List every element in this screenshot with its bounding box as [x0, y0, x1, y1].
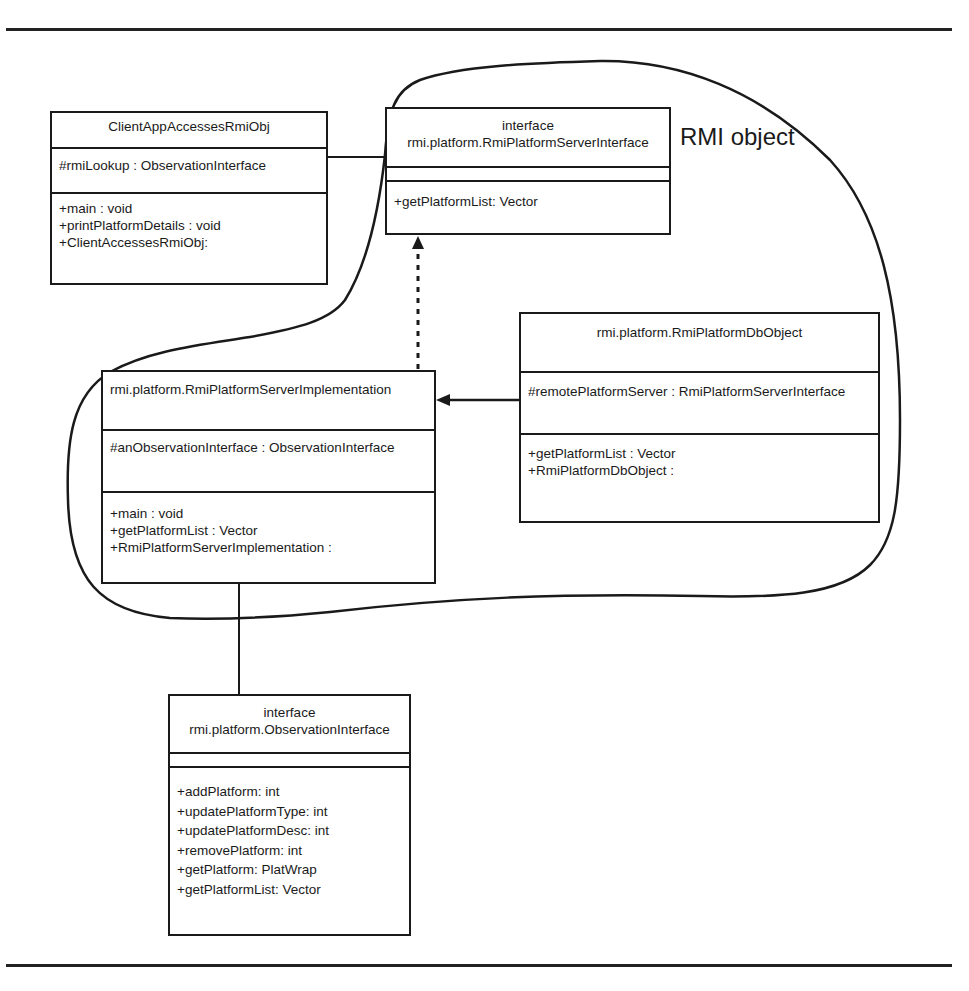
operation: +getPlatformList: Vector: [177, 880, 402, 900]
operation: +main : void: [110, 505, 427, 522]
attributes-section: #anObservationInterface : ObservationInt…: [103, 429, 434, 491]
operation: +RmiPlatformDbObject :: [528, 462, 871, 479]
operation: +RmiPlatformServerImplementation :: [110, 539, 427, 556]
operation: +addPlatform: int: [177, 782, 402, 802]
class-name: rmi.platform.RmiPlatformDbObject: [528, 324, 871, 341]
operations-section: +getPlatformList: Vector: [387, 180, 669, 233]
class-name: rmi.platform.RmiPlatformServerImplementa…: [110, 381, 427, 398]
operation: +getPlatform: PlatWrap: [177, 860, 402, 880]
interface-rmi-platform-server[interactable]: interface rmi.platform.RmiPlatformServer…: [385, 107, 671, 235]
stereotype-label: interface: [177, 704, 402, 721]
realization-arrowhead-icon: [412, 236, 424, 249]
class-name-section: interface rmi.platform.RmiPlatformServer…: [387, 109, 669, 166]
class-name-section: interface rmi.platform.ObservationInterf…: [170, 696, 409, 752]
operations-section: +addPlatform: int +updatePlatformType: i…: [170, 766, 409, 934]
attribute: #anObservationInterface : ObservationInt…: [110, 439, 427, 456]
operations-section: +main : void +printPlatformDetails : voi…: [52, 192, 326, 283]
operation: +main : void: [59, 200, 319, 217]
class-name: rmi.platform.RmiPlatformServerInterface: [394, 134, 662, 151]
rmi-object-label: RMI object: [680, 123, 795, 151]
class-name-section: rmi.platform.RmiPlatformServerImplementa…: [103, 372, 434, 429]
class-name-section: rmi.platform.RmiPlatformDbObject: [521, 314, 878, 371]
operation: +getPlatformList: Vector: [394, 193, 662, 210]
operation: +getPlatformList : Vector: [110, 522, 427, 539]
attributes-section: [387, 166, 669, 180]
stereotype-label: interface: [394, 117, 662, 134]
operation: +removePlatform: int: [177, 841, 402, 861]
operations-section: +main : void +getPlatformList : Vector +…: [103, 491, 434, 582]
operation: +updatePlatformDesc: int: [177, 821, 402, 841]
class-client-app[interactable]: ClientAppAccessesRmiObj #rmiLookup : Obs…: [50, 111, 328, 285]
operation: +updatePlatformType: int: [177, 802, 402, 822]
attributes-section: #rmiLookup : ObservationInterface: [52, 147, 326, 192]
attribute: #remotePlatformServer : RmiPlatformServe…: [528, 383, 871, 400]
operation: +printPlatformDetails : void: [59, 217, 319, 234]
class-rmi-platform-server-implementation[interactable]: rmi.platform.RmiPlatformServerImplementa…: [101, 370, 436, 584]
class-name: rmi.platform.ObservationInterface: [177, 721, 402, 738]
attributes-section: [170, 752, 409, 766]
class-name-section: ClientAppAccessesRmiObj: [52, 113, 326, 147]
class-rmi-platform-db-object[interactable]: rmi.platform.RmiPlatformDbObject #remote…: [519, 312, 880, 523]
class-name: ClientAppAccessesRmiObj: [59, 118, 319, 135]
operation: +ClientAccessesRmiObj:: [59, 234, 319, 251]
operations-section: +getPlatformList : Vector +RmiPlatformDb…: [521, 433, 878, 521]
attributes-section: #remotePlatformServer : RmiPlatformServe…: [521, 371, 878, 433]
interface-observation[interactable]: interface rmi.platform.ObservationInterf…: [168, 694, 411, 936]
attribute: #rmiLookup : ObservationInterface: [59, 157, 319, 174]
association-arrowhead-icon: [436, 394, 450, 406]
operation: +getPlatformList : Vector: [528, 445, 871, 462]
